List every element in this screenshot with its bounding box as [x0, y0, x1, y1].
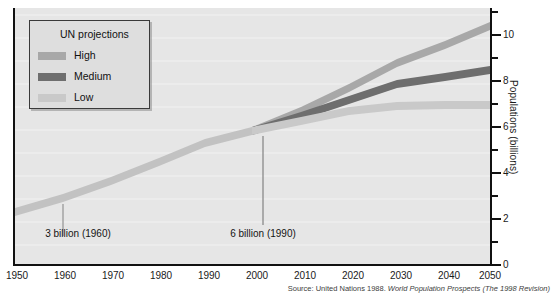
x-label-2040: 2040: [438, 270, 460, 281]
y-tick-minor-11: [492, 11, 498, 13]
y-tick-major-8: [492, 80, 501, 82]
x-label-2030: 2030: [390, 270, 412, 281]
source-note: Source: United Nations 1988. World Popul…: [288, 284, 550, 293]
y-tick-minor-1: [492, 241, 498, 243]
legend-title: UN projections: [60, 28, 129, 40]
y-tick-major-6: [492, 126, 501, 128]
y-tick-minor-9: [492, 57, 498, 59]
legend-box: UN projections High Medium Low: [29, 20, 150, 109]
source-title: World Population Prospects (The 1998 Rev…: [388, 284, 550, 293]
legend-label-medium: Medium: [74, 70, 111, 82]
legend-item-medium[interactable]: Medium: [38, 69, 146, 85]
x-label-1960: 1960: [54, 270, 76, 281]
legend-label-high: High: [74, 49, 96, 61]
legend-item-high[interactable]: High: [38, 48, 146, 64]
y-tick-major-2: [492, 218, 501, 220]
y-axis-right-line: [490, 8, 492, 266]
y-tick-minor-7: [492, 103, 498, 105]
legend-label-low: Low: [74, 91, 93, 103]
x-label-1950: 1950: [6, 270, 28, 281]
y-axis-left-line: [13, 8, 15, 266]
y-tick-major-10: [492, 34, 501, 36]
x-label-1970: 1970: [102, 270, 124, 281]
y-tick-major-4: [492, 172, 501, 174]
x-axis-line: [13, 264, 492, 266]
y-tick-major-0: [492, 264, 501, 266]
y-label-0: 0: [503, 260, 509, 270]
annotation-6-billion: 6 billion (1990): [230, 228, 296, 239]
x-label-2010: 2010: [294, 270, 316, 281]
population-projection-chart: 0 2 4 6 8 10 Populations (billions) 1950…: [0, 0, 556, 301]
x-label-1990: 1990: [198, 270, 220, 281]
y-label-10: 10: [503, 30, 514, 40]
x-label-2000: 2000: [246, 270, 268, 281]
y-tick-minor-3: [492, 195, 498, 197]
legend-swatch-low-icon: [38, 94, 66, 102]
series-historical-band: [15, 127, 252, 216]
x-label-1980: 1980: [150, 270, 172, 281]
y-tick-minor-5: [492, 149, 498, 151]
y-label-2: 2: [503, 214, 509, 224]
source-prefix: Source: United Nations 1988.: [288, 284, 388, 293]
legend-swatch-high-icon: [38, 52, 66, 60]
y-axis-title: Populations (billions): [508, 80, 519, 174]
annotation-3-billion: 3 billion (1960): [45, 228, 111, 239]
legend-item-low[interactable]: Low: [38, 90, 146, 106]
x-label-2020: 2020: [342, 270, 364, 281]
legend-swatch-medium-icon: [38, 73, 66, 81]
x-label-2050: 2050: [479, 270, 501, 281]
